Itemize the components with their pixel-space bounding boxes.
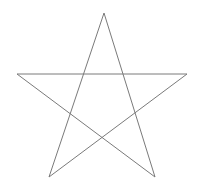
figure-canvas xyxy=(0,0,198,196)
pentagram-icon xyxy=(0,0,198,196)
